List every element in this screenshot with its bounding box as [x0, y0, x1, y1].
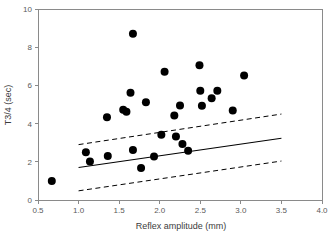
chart-canvas: 0.51.01.52.02.53.03.54.0 0246810 Reflex … — [0, 0, 333, 235]
data-point — [157, 131, 165, 139]
data-point — [195, 61, 203, 69]
data-point — [122, 108, 130, 116]
data-point — [198, 102, 206, 110]
data-point — [161, 68, 169, 76]
data-point — [104, 152, 112, 160]
data-point — [176, 101, 184, 109]
x-tick-label: 2.0 — [154, 206, 166, 215]
x-axis-tick-labels: 0.51.01.52.02.53.03.54.0 — [32, 206, 328, 215]
data-point — [86, 157, 94, 165]
data-point — [196, 87, 204, 95]
y-tick-label: 10 — [23, 5, 32, 14]
x-tick-label: 1.0 — [73, 206, 85, 215]
data-point — [150, 152, 158, 160]
data-point — [48, 177, 56, 185]
data-point — [137, 164, 145, 172]
data-point — [178, 140, 186, 148]
data-point — [208, 94, 216, 102]
x-axis-title: Reflex amplitude (mm) — [136, 221, 227, 231]
data-point — [170, 111, 178, 119]
data-point — [129, 30, 137, 38]
scatter-plot-figure: 0.51.01.52.02.53.03.54.0 0246810 Reflex … — [0, 0, 333, 235]
y-tick-label: 4 — [28, 120, 33, 129]
y-tick-label: 6 — [28, 81, 33, 90]
data-points — [48, 30, 248, 185]
data-point — [129, 146, 137, 154]
x-tick-label: 1.5 — [114, 206, 126, 215]
data-point — [103, 113, 111, 121]
data-point — [229, 107, 237, 115]
y-tick-label: 8 — [28, 43, 33, 52]
x-tick-label: 4.0 — [316, 206, 328, 215]
y-tick-label: 0 — [28, 196, 33, 205]
y-axis-title: T3/4 (sec) — [3, 85, 13, 126]
data-point — [142, 98, 150, 106]
x-tick-label: 3.0 — [235, 206, 247, 215]
x-tick-label: 0.5 — [32, 206, 44, 215]
confidence-band-line — [79, 161, 282, 191]
data-point — [213, 87, 221, 95]
y-axis-tick-labels: 0246810 — [23, 5, 32, 205]
data-point — [172, 132, 180, 140]
data-point — [82, 148, 90, 156]
data-point — [240, 71, 248, 79]
y-tick-label: 2 — [28, 158, 33, 167]
data-point — [184, 147, 192, 155]
data-point — [127, 89, 135, 97]
x-tick-label: 2.5 — [195, 206, 207, 215]
x-tick-label: 3.5 — [276, 206, 288, 215]
